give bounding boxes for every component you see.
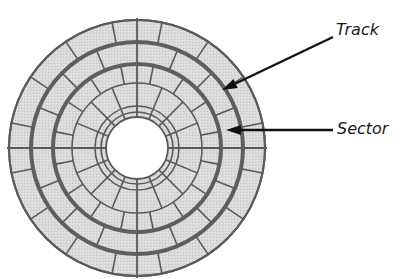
- disk-diagram: Track Sector: [0, 0, 407, 279]
- arrow-shaft: [236, 37, 333, 84]
- spindle-hole: [106, 117, 168, 179]
- track-label: Track: [336, 22, 379, 38]
- sector-label: Sector: [337, 121, 388, 137]
- platter: [7, 18, 267, 278]
- track-arrow: [222, 37, 333, 90]
- disk-platter-graphic: [0, 0, 407, 279]
